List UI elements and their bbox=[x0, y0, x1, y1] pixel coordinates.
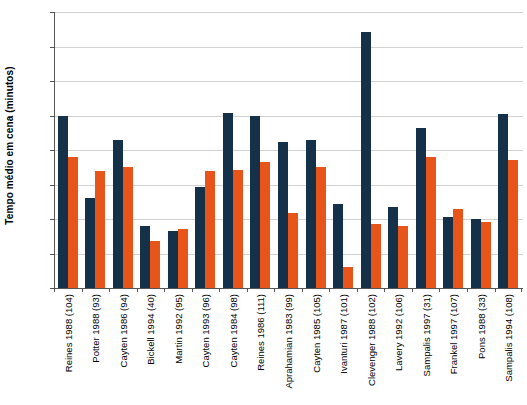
x-tick-label: Martin 1992 (95) bbox=[172, 294, 183, 364]
bar-orange[interactable] bbox=[260, 162, 270, 288]
x-tick-label: Pons 1988 (33) bbox=[475, 294, 486, 359]
x-tick-label: Reines 1988 (104) bbox=[62, 294, 73, 372]
bar-navy[interactable] bbox=[306, 140, 316, 288]
x-tick-cell bbox=[495, 288, 523, 293]
bar-group[interactable] bbox=[82, 12, 110, 288]
bar-group[interactable] bbox=[302, 12, 330, 288]
x-label-cell: Bickell 1994 (40) bbox=[137, 294, 165, 402]
bar-navy[interactable] bbox=[195, 187, 205, 288]
x-tick-mark bbox=[439, 288, 440, 292]
bar-group[interactable] bbox=[357, 12, 385, 288]
x-tick-cell bbox=[54, 288, 82, 293]
bar-orange[interactable] bbox=[481, 222, 491, 288]
bar-navy[interactable] bbox=[471, 219, 481, 288]
x-tick-mark bbox=[384, 288, 385, 292]
x-label-cell: Sampalis 1997 (31) bbox=[412, 294, 440, 402]
x-tick-mark bbox=[274, 288, 275, 292]
bar-group[interactable] bbox=[329, 12, 357, 288]
x-axis-ticks bbox=[54, 288, 522, 293]
x-tick-mark bbox=[357, 288, 358, 292]
x-tick-label: Clevenger 1988 (102) bbox=[365, 294, 376, 386]
bar-navy[interactable] bbox=[85, 198, 95, 288]
bar-orange[interactable] bbox=[288, 213, 298, 288]
bar-orange[interactable] bbox=[233, 170, 243, 288]
bar-navy[interactable] bbox=[168, 231, 178, 288]
x-label-cell: Potter 1988 (93) bbox=[82, 294, 110, 402]
bar-navy[interactable] bbox=[416, 128, 426, 288]
x-tick-mark bbox=[247, 288, 248, 292]
x-tick-label: Bickell 1994 (40) bbox=[145, 294, 156, 365]
x-tick-label: Sampalis 1994 (108) bbox=[503, 294, 514, 382]
x-axis-labels: Reines 1988 (104)Potter 1988 (93)Cayten … bbox=[54, 294, 522, 402]
x-label-cell: Cayten 1993 (96) bbox=[192, 294, 220, 402]
x-tick-mark bbox=[412, 288, 413, 292]
bar-group[interactable] bbox=[109, 12, 137, 288]
bar-group[interactable] bbox=[137, 12, 165, 288]
bar-navy[interactable] bbox=[443, 217, 453, 288]
x-tick-cell bbox=[82, 288, 110, 293]
bar-group[interactable] bbox=[495, 12, 523, 288]
x-label-cell: Cayten 1986 (94) bbox=[109, 294, 137, 402]
x-tick-cell bbox=[137, 288, 165, 293]
bar-navy[interactable] bbox=[498, 114, 508, 288]
x-tick-mark bbox=[521, 288, 522, 292]
bar-group[interactable] bbox=[54, 12, 82, 288]
bar-navy[interactable] bbox=[58, 116, 68, 289]
bar-orange[interactable] bbox=[205, 171, 215, 288]
bar-group[interactable] bbox=[247, 12, 275, 288]
x-tick-label: Aprahamian 1983 (99) bbox=[283, 294, 294, 389]
bar-group[interactable] bbox=[384, 12, 412, 288]
x-tick-mark bbox=[219, 288, 220, 292]
bar-navy[interactable] bbox=[278, 142, 288, 288]
bar-orange[interactable] bbox=[68, 157, 78, 288]
x-tick-label: Cayten 1986 (94) bbox=[117, 294, 128, 367]
bar-navy[interactable] bbox=[388, 207, 398, 288]
x-tick-mark bbox=[164, 288, 165, 292]
bar-group[interactable] bbox=[412, 12, 440, 288]
x-tick-cell bbox=[384, 288, 412, 293]
bar-orange[interactable] bbox=[508, 160, 518, 288]
bar-group[interactable] bbox=[439, 12, 467, 288]
bar-group[interactable] bbox=[219, 12, 247, 288]
x-label-cell: Cayten 1984 (98) bbox=[219, 294, 247, 402]
x-tick-cell bbox=[109, 288, 137, 293]
bar-navy[interactable] bbox=[333, 204, 343, 288]
bar-orange[interactable] bbox=[150, 241, 160, 288]
x-tick-label: Reines 1986 (111) bbox=[255, 294, 266, 371]
x-tick-cell bbox=[439, 288, 467, 293]
bar-orange[interactable] bbox=[398, 226, 408, 288]
x-label-cell: Aprahamian 1983 (99) bbox=[274, 294, 302, 402]
x-tick-label: Sampalis 1997 (31) bbox=[420, 294, 431, 376]
bar-orange[interactable] bbox=[453, 209, 463, 288]
bar-orange[interactable] bbox=[95, 171, 105, 288]
x-tick-label: Frankel 1997 (107) bbox=[448, 294, 459, 374]
x-label-cell: Clevenger 1988 (102) bbox=[357, 294, 385, 402]
bar-group[interactable] bbox=[192, 12, 220, 288]
bar-group[interactable] bbox=[467, 12, 495, 288]
bar-orange[interactable] bbox=[316, 167, 326, 288]
bar-orange[interactable] bbox=[123, 167, 133, 288]
x-tick-cell bbox=[274, 288, 302, 293]
bar-series-container bbox=[54, 12, 522, 288]
x-tick-mark bbox=[329, 288, 330, 292]
bar-navy[interactable] bbox=[361, 32, 371, 288]
bar-group[interactable] bbox=[274, 12, 302, 288]
x-tick-mark bbox=[467, 288, 468, 292]
bar-navy[interactable] bbox=[113, 140, 123, 288]
x-tick-cell bbox=[357, 288, 385, 293]
bar-orange[interactable] bbox=[371, 224, 381, 288]
bar-navy[interactable] bbox=[140, 226, 150, 288]
bar-orange[interactable] bbox=[426, 157, 436, 288]
x-tick-cell bbox=[412, 288, 440, 293]
x-tick-cell bbox=[247, 288, 275, 293]
bar-group[interactable] bbox=[164, 12, 192, 288]
x-tick-label: Cayten 1985 (105) bbox=[310, 294, 321, 373]
x-tick-label: Cayten 1984 (98) bbox=[227, 294, 238, 367]
x-label-cell: Sampalis 1994 (108) bbox=[495, 294, 523, 402]
bar-navy[interactable] bbox=[223, 113, 233, 288]
x-label-cell: Pons 1988 (33) bbox=[467, 294, 495, 402]
bar-navy[interactable] bbox=[250, 116, 260, 289]
x-tick-cell bbox=[192, 288, 220, 293]
bar-orange[interactable] bbox=[343, 267, 353, 288]
bar-orange[interactable] bbox=[178, 229, 188, 288]
